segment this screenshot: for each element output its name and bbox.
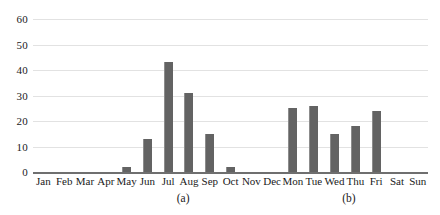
bar-slot: [199, 19, 220, 172]
bar: [205, 134, 214, 172]
x-axis-tick-label: Thu: [345, 174, 366, 188]
bar-slot: [75, 19, 96, 172]
x-axis-tick-label: Nov: [241, 174, 262, 188]
x-axis-tick-label: Sep: [199, 174, 220, 188]
bar-slot: [262, 19, 283, 172]
bar-slot: [220, 19, 241, 172]
x-axis-tick-label: Sun: [407, 174, 428, 188]
bar: [351, 126, 360, 172]
y-axis-tick-label: 20: [17, 116, 28, 127]
y-axis: 0102030405060: [0, 0, 33, 215]
bar-slot: [303, 19, 324, 172]
bar-slot: [179, 19, 200, 172]
bar-slot: [158, 19, 179, 172]
x-axis-tick-label: May: [116, 174, 137, 188]
y-axis-tick-label: 40: [17, 65, 28, 76]
group-caption: (b): [342, 191, 355, 205]
x-axis-tick-label: Oct: [220, 174, 241, 188]
x-axis-tick-label: Apr: [95, 174, 116, 188]
y-axis-tick-label: 50: [17, 39, 28, 50]
y-axis-tick-label: 30: [17, 90, 28, 101]
bar-slot: [283, 19, 304, 172]
x-axis-tick-labels: JanFebMarAprMayJunJulAugSepOctNovDecMonT…: [33, 174, 428, 188]
x-axis-tick-label: Tue: [303, 174, 324, 188]
x-axis-tick-label: Jul: [158, 174, 179, 188]
bar: [164, 62, 173, 172]
bar-slot: [345, 19, 366, 172]
y-axis-tick-label: 60: [17, 14, 28, 25]
y-axis-tick-label: 0: [22, 167, 28, 178]
bar-slot: [407, 19, 428, 172]
bar-slot: [95, 19, 116, 172]
x-axis-tick-label: Jan: [33, 174, 54, 188]
x-axis-tick-label: Dec: [262, 174, 283, 188]
group-caption: (a): [177, 191, 190, 205]
bar: [143, 139, 152, 172]
x-axis-tick-label: Sat: [387, 174, 408, 188]
bar-chart-figure: 0102030405060 JanFebMarAprMayJunJulAugSe…: [0, 0, 440, 215]
bar-slot: [241, 19, 262, 172]
bar-slot: [33, 19, 54, 172]
bar-slot: [137, 19, 158, 172]
bar: [309, 106, 318, 172]
x-axis-tick-label: Wed: [324, 174, 345, 188]
bar: [288, 108, 297, 172]
bar: [184, 93, 193, 172]
x-axis-tick-label: Aug: [179, 174, 200, 188]
bar-series: [33, 19, 428, 172]
x-axis-tick-label: Mar: [75, 174, 96, 188]
bar-slot: [116, 19, 137, 172]
bar-slot: [324, 19, 345, 172]
x-axis-tick-label: Fri: [366, 174, 387, 188]
bar-slot: [366, 19, 387, 172]
bar: [330, 134, 339, 172]
bar-slot: [387, 19, 408, 172]
plot-area: [33, 19, 428, 172]
bar-slot: [54, 19, 75, 172]
x-axis-tick-label: Feb: [54, 174, 75, 188]
x-axis-tick-label: Jun: [137, 174, 158, 188]
bar: [372, 111, 381, 172]
x-axis-tick-label: Mon: [283, 174, 304, 188]
y-axis-tick-label: 10: [17, 141, 28, 152]
